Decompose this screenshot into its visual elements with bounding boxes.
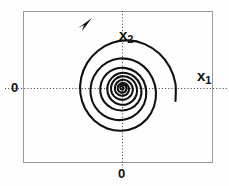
x-axis-label-subscript: 1 <box>205 74 211 86</box>
x-axis-label: x1 <box>197 68 211 86</box>
phase-plane-plot <box>0 0 229 186</box>
x-axis-origin-tick-label: 0 <box>118 167 125 180</box>
spiral-trajectory <box>80 40 176 130</box>
y-axis-label: x2 <box>119 27 133 45</box>
phase-portrait-figure: x2 x1 0 0 <box>0 0 229 186</box>
y-axis-origin-tick-label: 0 <box>11 81 18 94</box>
direction-arrow-icon <box>78 18 92 31</box>
y-axis-label-subscript: 2 <box>127 33 133 45</box>
